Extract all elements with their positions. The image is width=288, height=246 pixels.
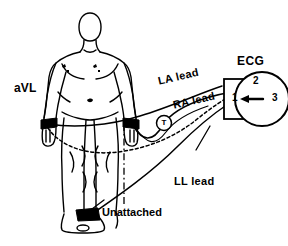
ll-lead-leader — [196, 126, 210, 150]
hip-line — [62, 112, 118, 120]
hand-left-fingers — [46, 130, 50, 142]
leg-left-outer — [62, 118, 64, 212]
ecg-label: ECG — [237, 55, 264, 67]
leg-right-outer — [116, 118, 118, 212]
navel — [87, 99, 93, 103]
ecg-lead-placement-diagram: aVL ECG LA lead RA lead LL lead Unattach… — [0, 0, 288, 246]
electrode-left-ankle — [76, 208, 100, 221]
selector-position-3[interactable]: 3 — [272, 93, 278, 103]
unattached-label: Unattached — [102, 207, 162, 218]
selector-position-1[interactable]: 1 — [232, 93, 238, 103]
ll-lead-label: LL lead — [174, 176, 214, 187]
leg-right-inner — [94, 120, 96, 214]
foot-detail — [77, 225, 89, 231]
knee-right — [106, 152, 110, 172]
chest-markings — [62, 64, 100, 72]
knee-left — [70, 152, 74, 172]
avl-label: aVL — [14, 82, 37, 94]
clavicle-notch — [84, 50, 96, 52]
leg-left-inner — [84, 120, 86, 214]
selector-position-2[interactable]: 2 — [253, 76, 259, 86]
hand-right-fingers — [130, 130, 134, 142]
head-outline — [79, 13, 101, 41]
t-junction-label: T — [157, 116, 171, 130]
